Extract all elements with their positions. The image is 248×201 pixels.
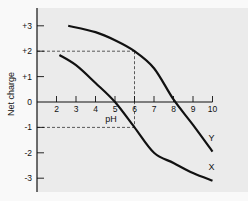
x-axis-title: pH (105, 114, 117, 124)
curve-label-x: X (208, 162, 214, 172)
y-tick-label: +2 (22, 46, 32, 56)
x-tick-label: 2 (54, 104, 59, 114)
x-tick-label: 4 (93, 104, 98, 114)
curve-label-y: Y (208, 133, 214, 143)
x-tick-label: 9 (191, 104, 196, 114)
y-tick-label: +1 (22, 72, 32, 82)
y-tick-label: 0 (27, 97, 32, 107)
y-tick-label: +3 (22, 21, 32, 31)
y-tick-label: -3 (24, 173, 32, 183)
net-charge-vs-ph-chart: +3+2+10-1-2-32345678910 pHNet chargeYX (0, 0, 248, 201)
x-tick-label: 6 (132, 104, 137, 114)
x-tick-label: 7 (152, 104, 157, 114)
y-tick-label: -1 (24, 122, 32, 132)
x-tick-label: 10 (208, 104, 218, 114)
x-tick-label: 8 (171, 104, 176, 114)
plot-background (37, 8, 248, 192)
y-axis-title: Net charge (6, 72, 16, 116)
x-tick-label: 3 (74, 104, 79, 114)
y-tick-label: -2 (24, 148, 32, 158)
